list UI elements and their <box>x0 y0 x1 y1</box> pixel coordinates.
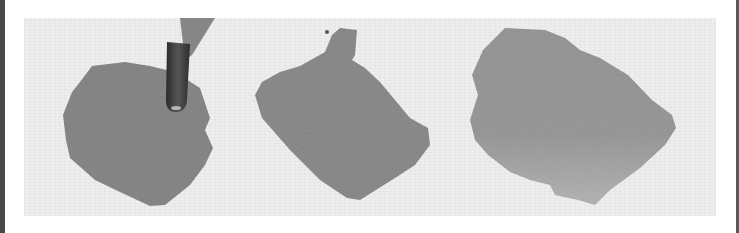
swatch-2 <box>255 28 430 200</box>
swatch-3 <box>470 28 676 205</box>
watercolor-swatches-illustration <box>0 0 739 233</box>
swatch-1 <box>63 62 213 206</box>
